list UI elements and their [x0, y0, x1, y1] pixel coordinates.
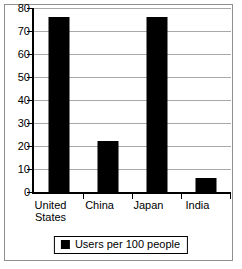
bar-china[interactable]: [97, 141, 118, 192]
y-axis-tick: [27, 100, 32, 101]
x-label-line: States: [35, 211, 66, 223]
x-label-japan: Japan: [124, 199, 173, 211]
bar-japan[interactable]: [146, 17, 167, 192]
y-axis-tick: [27, 31, 32, 32]
bar-slot-china: [83, 8, 132, 192]
chart-legend: Users per 100 people: [54, 236, 188, 254]
y-axis-tick: [27, 8, 32, 9]
bar-united-states[interactable]: [48, 17, 69, 192]
bar-slot-united-states: [34, 8, 83, 192]
y-axis-tick: [27, 77, 32, 78]
legend-label: Users per 100 people: [75, 239, 180, 250]
y-axis-tick: [27, 54, 32, 55]
y-axis-tick: [27, 123, 32, 124]
legend-swatch-icon: [61, 240, 70, 249]
x-label-china: China: [75, 199, 124, 211]
y-axis-tick: [27, 169, 32, 170]
bar-slot-india: [181, 8, 230, 192]
axis-and-bars: [32, 8, 231, 198]
plot-area: 80 70 60 50 40 30 20 10 0: [8, 8, 231, 198]
x-axis-category-labels: United States China Japan India: [26, 199, 223, 231]
x-axis-tick: [230, 194, 231, 199]
y-axis-tick: [27, 146, 32, 147]
bar-slot-japan: [132, 8, 181, 192]
chart-screenshot: 80 70 60 50 40 30 20 10 0: [0, 0, 242, 269]
bar-india[interactable]: [195, 178, 216, 192]
bar-group: [34, 8, 231, 192]
x-label-united-states: United States: [26, 199, 75, 223]
x-label-india: India: [173, 199, 222, 211]
x-label-line: United: [35, 199, 67, 211]
